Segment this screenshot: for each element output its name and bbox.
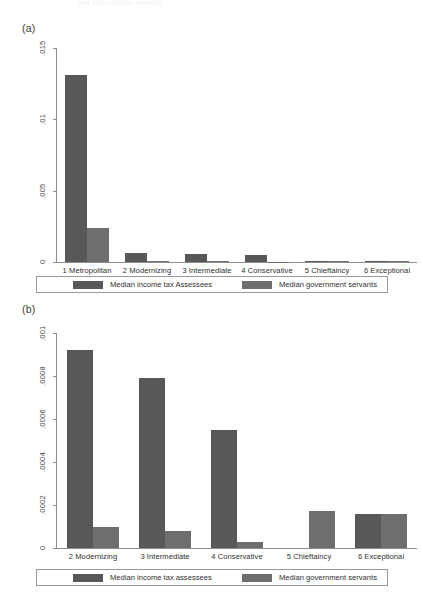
y-tick-mark xyxy=(53,419,57,420)
legend-item-assessees: Median income tax assessees xyxy=(37,573,218,582)
bar-group xyxy=(65,48,109,262)
y-tick-label: .015 xyxy=(38,32,47,64)
y-tick-label: .0002 xyxy=(38,489,47,521)
y-tick-label: .001 xyxy=(38,317,47,349)
bar xyxy=(327,261,349,262)
bar-group-container-a xyxy=(57,48,417,262)
x-tick-label: 6 Exceptional xyxy=(357,266,417,275)
x-tick-label: 3 Intermediate xyxy=(129,552,201,561)
legend-swatch xyxy=(73,574,103,582)
bar xyxy=(309,511,335,548)
bar-group xyxy=(139,333,191,548)
legend-swatch xyxy=(242,281,272,289)
legend-a: Median income tax AssesseesMedian govern… xyxy=(36,276,388,293)
bar xyxy=(305,261,327,262)
x-tick-label: 6 Exceptional xyxy=(345,552,417,561)
y-tick-label: .0004 xyxy=(38,446,47,478)
x-axis-b xyxy=(56,548,417,549)
bar xyxy=(93,527,119,549)
bar xyxy=(387,261,409,262)
legend-label: Median government servants xyxy=(279,573,377,582)
x-tick-label: 2 Modernizing xyxy=(57,552,129,561)
y-tick-label: .01 xyxy=(38,103,47,135)
legend-label: Median income tax assessees xyxy=(110,573,212,582)
x-tick-label: 4 Conservative xyxy=(237,266,297,275)
legend-swatch xyxy=(73,281,103,289)
y-tick-label: .005 xyxy=(38,175,47,207)
y-tick-label: 0 xyxy=(38,246,47,278)
bar xyxy=(185,254,207,262)
bar xyxy=(245,255,267,262)
bar xyxy=(125,253,147,262)
bar-group xyxy=(67,333,119,548)
x-tick-label: 5 Chieftaincy xyxy=(273,552,345,561)
y-tick-mark xyxy=(53,376,57,377)
plot-area-a: 0.005.01.015 1 Metropolitan2 Modernizing… xyxy=(0,22,423,300)
bar-group xyxy=(355,333,407,548)
y-tick-mark xyxy=(53,191,57,192)
legend-label: Median government servants xyxy=(279,280,377,289)
x-tick-label: 3 Intermediate xyxy=(177,266,237,275)
bar xyxy=(147,261,169,262)
chart-panel-a: (a) 0.005.01.015 1 Metropolitan2 Moderni… xyxy=(0,22,423,300)
legend-item-govt-servants: Median government servants xyxy=(218,573,387,582)
chart-panel-b: (b) 0.0002.0004.0006.0008.001 2 Moderniz… xyxy=(0,303,423,603)
y-tick-mark xyxy=(53,333,57,334)
legend-item-govt-servants: Median government servants xyxy=(218,280,387,289)
legend-b: Median income tax assesseesMedian govern… xyxy=(36,569,388,586)
bar xyxy=(381,514,407,548)
bar xyxy=(87,228,109,262)
y-tick-label: .0006 xyxy=(38,403,47,435)
y-tick-label: .0008 xyxy=(38,360,47,392)
y-tick-mark xyxy=(53,505,57,506)
bar-group xyxy=(211,333,263,548)
y-tick-mark xyxy=(53,48,57,49)
legend-label: Median income tax Assessees xyxy=(110,280,212,289)
bar xyxy=(211,430,237,548)
bar xyxy=(355,514,381,548)
bar xyxy=(65,75,87,262)
y-tick-mark xyxy=(53,462,57,463)
y-tick-mark xyxy=(53,262,57,263)
y-tick-label: 0 xyxy=(38,532,47,564)
bar xyxy=(207,261,229,262)
x-tick-label: 2 Modernizing xyxy=(117,266,177,275)
plot-area-b: 0.0002.0004.0006.0008.001 2 Modernizing3… xyxy=(0,303,423,603)
x-tick-label: 4 Conservative xyxy=(201,552,273,561)
x-tick-label: 1 Metropolitan xyxy=(57,266,117,275)
bar xyxy=(365,261,387,262)
bar xyxy=(67,350,93,548)
x-axis-a xyxy=(56,262,417,263)
bar-group xyxy=(125,48,169,262)
y-tick-mark xyxy=(53,548,57,549)
bar-group xyxy=(185,48,229,262)
page-header-fragment: and sub-national variance xyxy=(78,0,298,8)
bar xyxy=(237,542,263,548)
bar-group xyxy=(283,333,335,548)
bar xyxy=(165,531,191,548)
legend-item-assessees: Median income tax Assessees xyxy=(37,280,218,289)
y-tick-mark xyxy=(53,119,57,120)
bar-group xyxy=(365,48,409,262)
x-tick-label: 5 Chieftaincy xyxy=(297,266,357,275)
legend-swatch xyxy=(242,574,272,582)
bar xyxy=(139,378,165,548)
bar-group xyxy=(245,48,289,262)
bar-group xyxy=(305,48,349,262)
bar-group-container-b xyxy=(57,333,417,548)
